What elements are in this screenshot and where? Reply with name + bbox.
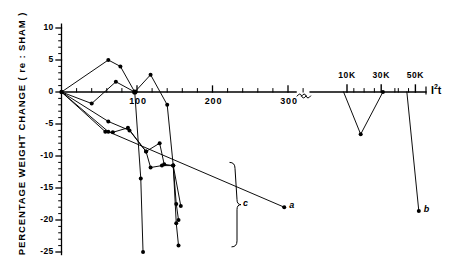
data-point [381, 90, 385, 94]
data-point [106, 119, 110, 123]
figure-container: PERCENTAGE WEIGHT CHANGE ( re : SHAM ) 1… [0, 0, 455, 277]
series-line-high-energy-v-trace [344, 92, 383, 134]
chart-plot-area [0, 0, 455, 277]
data-point [139, 176, 143, 180]
brace-c [230, 162, 241, 246]
y-tick-label-0: 0 [26, 86, 54, 96]
series-line-trace-to-b [407, 92, 419, 211]
x-tick-label-300: 300 [277, 96, 301, 106]
data-point [118, 64, 122, 68]
data-point [106, 130, 110, 134]
data-point [171, 164, 175, 168]
data-point [359, 132, 363, 136]
x-tick-label-10K: 10K [335, 70, 359, 80]
data-point [282, 205, 286, 209]
y-tick-label-5: 5 [26, 54, 54, 64]
y-tick-label--5: -5 [26, 118, 54, 128]
data-point [158, 141, 162, 145]
data-point [144, 150, 148, 154]
y-tick-label-10: 10 [26, 22, 54, 32]
x-tick-label-30K: 30K [369, 70, 393, 80]
data-point [160, 164, 164, 168]
data-point [177, 244, 181, 248]
data-point [149, 73, 153, 77]
series-label-c: c [243, 198, 248, 208]
series-line-lower-flat-trace [62, 92, 181, 206]
data-point [106, 58, 110, 62]
x-axis-title: I2t [431, 83, 441, 96]
x-tick-label-50K: 50K [403, 70, 427, 80]
origin-data-point [59, 90, 63, 94]
data-point [141, 250, 145, 254]
data-point [179, 204, 183, 208]
series-line-mid-descent-trace [62, 92, 179, 220]
series-line-upper-peak-trace [62, 60, 144, 252]
data-point [165, 103, 169, 107]
data-point [174, 202, 178, 206]
data-point [132, 89, 137, 94]
y-tick-label--20: -20 [26, 214, 54, 224]
series-line-trace-to-a [62, 92, 285, 207]
series-line-second-peak-trace [62, 75, 179, 246]
axes-group [56, 24, 433, 254]
series-label-a: a [289, 200, 294, 210]
data-point [126, 126, 130, 130]
data-point [114, 80, 118, 84]
data-point [177, 218, 181, 222]
x-tick-label-200: 200 [202, 96, 226, 106]
data-point [417, 209, 421, 213]
data-point [90, 102, 94, 106]
data-series-group [59, 58, 421, 254]
y-tick-label--15: -15 [26, 182, 54, 192]
series-label-b: b [424, 204, 430, 214]
y-tick-label--10: -10 [26, 150, 54, 160]
x-tick-label-100: 100 [126, 96, 150, 106]
y-tick-label--25: -25 [26, 246, 54, 256]
data-point [149, 166, 153, 170]
